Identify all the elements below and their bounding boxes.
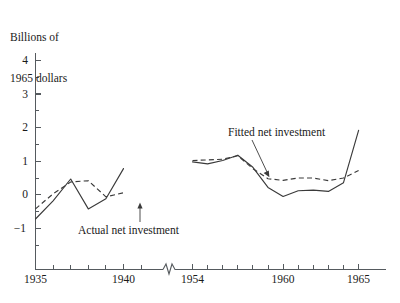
- series-fitted-postwar: [193, 156, 359, 181]
- x-tick-label-1954: 1954: [170, 273, 216, 287]
- y-tick-label-2: 2: [6, 121, 28, 135]
- y-tick-label-4: 4: [6, 54, 28, 68]
- x-tick-label-1960: 1960: [260, 273, 306, 287]
- chart-figure: Billions of 1965 dollars 4 3 2 1 0 −1 19…: [0, 0, 400, 303]
- x-axis-ticks-left: [36, 264, 142, 270]
- y-axis-title-line2: 1965 dollars: [10, 72, 67, 86]
- y-tick-label-3: 3: [6, 88, 28, 102]
- x-tick-label-1935: 1935: [13, 273, 59, 287]
- y-tick-label-neg1: −1: [4, 222, 26, 236]
- y-tick-label-0: 0: [6, 188, 28, 202]
- annotation-leader-actual: [137, 203, 142, 223]
- y-axis-title-line1: Billions of: [10, 31, 67, 45]
- annotation-fitted-net-investment: Fitted net investment: [228, 126, 325, 140]
- series-actual-prewar: [36, 169, 124, 219]
- annotation-actual-net-investment: Actual net investment: [78, 224, 179, 238]
- x-tick-label-1940: 1940: [101, 273, 147, 287]
- y-tick-label-1: 1: [6, 155, 28, 169]
- x-tick-label-1965: 1965: [336, 273, 382, 287]
- x-axis-ticks-right: [193, 264, 359, 270]
- series-actual-postwar: [193, 130, 359, 196]
- annotation-leader-fitted: [252, 140, 269, 177]
